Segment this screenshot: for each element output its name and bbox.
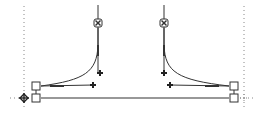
left-horizontal-control-point[interactable] bbox=[90, 82, 96, 88]
left-upper-node[interactable] bbox=[32, 82, 40, 90]
right-top-handle[interactable] bbox=[160, 19, 168, 27]
right-anchor-icon[interactable] bbox=[240, 94, 248, 102]
right-lower-node[interactable] bbox=[230, 94, 238, 102]
left-top-handle[interactable] bbox=[94, 19, 102, 27]
right-bezier-curve[interactable] bbox=[164, 28, 229, 86]
left-anchor-icon[interactable] bbox=[19, 93, 29, 103]
right-upper-node[interactable] bbox=[230, 82, 238, 90]
left-lower-node[interactable] bbox=[32, 94, 40, 102]
right-vertical-control-point[interactable] bbox=[161, 70, 167, 76]
bezier-diagram-canvas bbox=[0, 0, 265, 116]
right-horizontal-control-point[interactable] bbox=[167, 82, 173, 88]
left-bezier-curve[interactable] bbox=[41, 28, 98, 86]
